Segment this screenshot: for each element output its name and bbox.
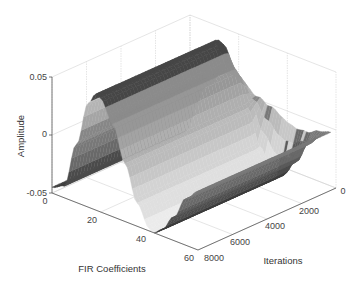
x-axis-label: FIR Coefficients xyxy=(78,263,146,274)
y-tick-8000: 8000 xyxy=(204,253,224,263)
z-axis-label: Amplitude xyxy=(15,115,26,157)
surface-mesh xyxy=(52,40,331,233)
x-tick-20: 20 xyxy=(87,215,97,225)
y-tick-2000: 2000 xyxy=(299,206,319,216)
y-tick-6000: 6000 xyxy=(230,237,250,247)
y-tick-4000: 4000 xyxy=(265,221,285,231)
z-tick-0: 0 xyxy=(42,129,47,139)
y-axis-label: Iterations xyxy=(263,255,302,266)
surface-plot: 0.05 0 -0.05 0 20 40 60 0 2000 4000 6000… xyxy=(0,0,361,289)
x-tick-40: 40 xyxy=(136,234,146,244)
y-tick-0: 0 xyxy=(340,186,345,196)
z-tick-0.05: 0.05 xyxy=(29,72,47,82)
x-tick-60: 60 xyxy=(184,253,194,263)
x-tick-0: 0 xyxy=(42,196,47,206)
